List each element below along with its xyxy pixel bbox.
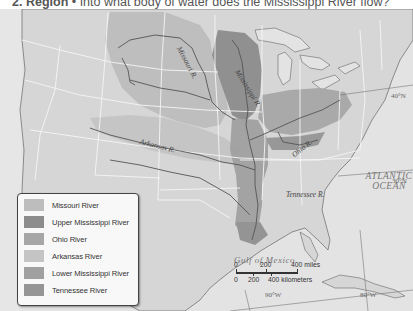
longitude-90-label: 90°W xyxy=(265,291,281,299)
tennessee-river-label: Tennessee R. xyxy=(286,190,324,199)
question-separator: • xyxy=(72,0,76,9)
question-category: Region xyxy=(26,0,68,9)
legend-swatch-arkansas xyxy=(24,250,44,262)
legend-item-tennessee: Tennessee River xyxy=(24,283,107,297)
legend-swatch-lower-mississippi xyxy=(24,267,44,279)
legend-label: Lower Mississippi River xyxy=(52,269,129,278)
legend-label: Arkansas River xyxy=(52,252,102,261)
legend-item-arkansas: Arkansas River xyxy=(24,249,102,263)
latitude-40-label: 40°N xyxy=(391,92,406,100)
legend-swatch-upper-mississippi xyxy=(24,216,44,228)
legend-label: Ohio River xyxy=(52,235,87,244)
scale-miles-400: 400 miles xyxy=(291,261,320,268)
legend-label: Upper Mississippi River xyxy=(52,218,129,227)
legend-label: Missouri River xyxy=(52,201,99,210)
scale-km-200: 200 xyxy=(248,276,259,283)
legend-item-missouri: Missouri River xyxy=(24,198,99,212)
legend-swatch-ohio xyxy=(24,233,44,245)
legend-swatch-missouri xyxy=(24,199,44,211)
legend-label: Tennessee River xyxy=(52,286,107,295)
scale-km-400: 400 kilometers xyxy=(268,276,312,283)
scale-tick xyxy=(297,269,298,273)
scale-bar: 0 200 400 miles 0 200 400 kilometers xyxy=(233,259,353,289)
scale-km-0: 0 xyxy=(234,276,238,283)
legend-item-ohio: Ohio River xyxy=(24,232,87,246)
latitude-30-label: 30°N xyxy=(392,177,407,185)
longitude-80-label: 80°W xyxy=(360,291,376,299)
legend-swatch-tennessee xyxy=(24,284,44,296)
question-header: 2. Region • Into what body of water does… xyxy=(0,0,413,9)
scale-line xyxy=(236,272,298,274)
question-number: 2. xyxy=(12,0,22,9)
scale-miles-200: 200 xyxy=(260,261,271,268)
question-text: 2. Region • Into what body of water does… xyxy=(12,0,390,9)
map-legend: Missouri River Upper Mississippi River O… xyxy=(17,193,139,306)
legend-item-lower-mississippi: Lower Mississippi River xyxy=(24,266,129,280)
question-prompt: Into what body of water does the Mississ… xyxy=(80,0,390,9)
scale-tick xyxy=(266,269,267,273)
scale-tick xyxy=(236,269,237,273)
scale-miles-0: 0 xyxy=(234,261,238,268)
legend-item-upper-mississippi: Upper Mississippi River xyxy=(24,215,129,229)
